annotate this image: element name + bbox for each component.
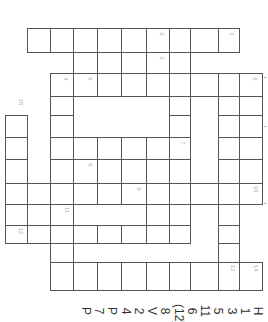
crossword-cell[interactable]	[73, 159, 98, 184]
crossword-cell[interactable]	[121, 159, 147, 184]
crossword-cell[interactable]	[50, 243, 74, 263]
legend-item: (12)	[172, 304, 186, 318]
clue-number: 8	[87, 163, 93, 166]
crossword-cell[interactable]	[27, 28, 51, 53]
crossword-cell[interactable]	[169, 73, 191, 97]
crossword-cell[interactable]	[169, 183, 191, 205]
crossword-cell[interactable]	[121, 183, 147, 205]
crossword-cell[interactable]	[169, 225, 191, 244]
crossword-cell[interactable]	[97, 183, 122, 205]
crossword-cell[interactable]	[5, 183, 28, 205]
crossword-cell[interactable]	[218, 137, 240, 160]
crossword-cell[interactable]	[50, 28, 74, 53]
crossword-cell[interactable]	[121, 225, 147, 244]
crossword-cell[interactable]	[218, 262, 240, 291]
crossword-cell[interactable]	[50, 262, 74, 291]
crossword-cell[interactable]	[27, 225, 51, 244]
crossword-cell[interactable]	[146, 73, 170, 97]
clue-number: 2	[159, 32, 165, 35]
crossword-cell[interactable]	[169, 262, 191, 291]
crossword-cell[interactable]	[50, 225, 74, 244]
crossword-cell[interactable]	[239, 96, 263, 116]
crossword-cell[interactable]	[97, 73, 122, 97]
crossword-cell[interactable]	[27, 204, 51, 226]
crossword-cell[interactable]	[5, 137, 28, 160]
crossword-cell[interactable]	[121, 73, 147, 97]
crossword-cell[interactable]	[190, 262, 219, 291]
crossword-cell[interactable]	[169, 28, 191, 53]
clue-number: 5	[87, 77, 93, 80]
crossword-cell[interactable]	[146, 183, 170, 205]
crossword-cell[interactable]	[239, 137, 263, 160]
crossword-cell[interactable]	[73, 137, 98, 160]
crossword-cell[interactable]	[5, 204, 28, 226]
crossword-cell[interactable]	[50, 137, 74, 160]
crossword-cell[interactable]	[218, 73, 240, 97]
crossword-cell[interactable]	[218, 159, 240, 184]
legend-item: 4	[119, 304, 133, 318]
crossword-cell[interactable]	[50, 183, 74, 205]
crossword-cell[interactable]	[121, 262, 147, 291]
crossword-cell[interactable]	[146, 52, 170, 74]
crossword-cell[interactable]	[146, 204, 170, 226]
crossword-cell[interactable]	[73, 262, 98, 291]
crossword-cell[interactable]	[169, 96, 191, 116]
crossword-cell[interactable]	[97, 52, 122, 74]
crossword-cell[interactable]	[146, 225, 170, 244]
crossword-cell[interactable]	[97, 28, 122, 53]
crossword-cell[interactable]	[239, 159, 263, 184]
clue-number: 9	[136, 187, 142, 190]
crossword-cell[interactable]	[146, 159, 170, 184]
crossword-cell[interactable]	[27, 183, 51, 205]
clue-number: 3	[159, 56, 165, 59]
legend-item: 2	[132, 304, 146, 318]
crossword-cell[interactable]	[50, 159, 74, 184]
legend-item: P	[105, 304, 119, 318]
crossword-cell[interactable]	[73, 225, 98, 244]
clue-number: 1	[229, 32, 235, 35]
crossword-cell[interactable]	[239, 115, 263, 138]
crossword-cell[interactable]	[169, 52, 191, 74]
crossword-cell[interactable]	[218, 243, 240, 263]
crossword-cell[interactable]	[73, 28, 98, 53]
crossword-cell[interactable]	[5, 159, 28, 184]
crossword-cell[interactable]	[146, 137, 170, 160]
tick-mark: -	[264, 73, 266, 80]
crossword-cell[interactable]	[169, 115, 191, 138]
clue-number: 7	[180, 141, 186, 144]
crossword-cell[interactable]	[73, 73, 98, 97]
crossword-cell[interactable]	[50, 115, 74, 138]
legend-item: 1	[238, 304, 252, 318]
crossword-cell[interactable]	[73, 52, 98, 74]
clue-number: 12	[18, 228, 24, 235]
crossword-cell[interactable]	[146, 262, 170, 291]
crossword-cell[interactable]	[218, 183, 240, 205]
crossword-cell[interactable]	[190, 183, 219, 205]
crossword-cell[interactable]	[73, 183, 98, 205]
crossword-cell[interactable]	[5, 225, 28, 244]
crossword-cell[interactable]	[190, 73, 219, 97]
legend-item: 11	[198, 304, 212, 318]
crossword-cell[interactable]	[97, 262, 122, 291]
crossword-cell[interactable]	[121, 137, 147, 160]
crossword-cell[interactable]	[218, 96, 240, 116]
crossword-cell[interactable]	[239, 262, 263, 291]
crossword-cell[interactable]	[121, 28, 147, 53]
crossword-cell[interactable]	[218, 115, 240, 138]
crossword-cell[interactable]	[97, 137, 122, 160]
crossword-cell[interactable]	[50, 204, 74, 226]
crossword-cell[interactable]	[121, 52, 147, 74]
crossword-cell[interactable]	[169, 159, 191, 184]
crossword-cell[interactable]	[50, 96, 74, 116]
crossword-cell[interactable]	[190, 28, 219, 53]
legend-item: 3	[225, 304, 239, 318]
crossword-cell[interactable]	[239, 183, 263, 205]
legend-item: P	[79, 304, 93, 318]
crossword-cell[interactable]	[218, 225, 240, 244]
crossword-cell[interactable]	[97, 159, 122, 184]
crossword-cell[interactable]	[5, 115, 28, 138]
crossword-cell[interactable]	[169, 204, 191, 226]
crossword-cell[interactable]	[218, 204, 240, 226]
legend-row: P7P42V8(12)611531H	[0, 300, 268, 322]
crossword-cell[interactable]	[97, 225, 122, 244]
